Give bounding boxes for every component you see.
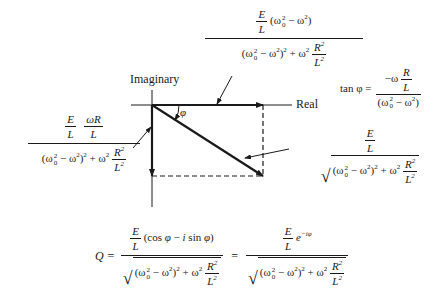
leader-magnitude-label	[245, 149, 289, 158]
tan-phi-equation: tan φ = −ω RL (ω20 − ω2)	[340, 66, 421, 110]
resultant-vector	[152, 105, 263, 176]
q-equation: Q = EL (cos φ − i sin φ) √(ω20 − ω2)2 + …	[95, 225, 348, 287]
equals-sign: =	[231, 249, 238, 264]
imaginary-axis-label: Imaginary	[130, 72, 179, 87]
q-term1: EL (cos φ − i sin φ) √(ω20 − ω2)2 + ω2 R…	[121, 225, 223, 287]
angle-arc	[175, 105, 179, 120]
real-axis-label: Real	[296, 97, 318, 112]
q-term2: EL e−iφ √(ω20 − ω2)2 + ω2 R2L2	[246, 225, 348, 287]
magnitude-label: EL √ (ω20 − ω2)2 + ω2 R2L2	[292, 127, 448, 185]
angle-phi-label: φ	[180, 106, 186, 118]
imaginary-component-label: EL ωRL (ω20 − ω2)2 + ω2 R2L2	[28, 113, 140, 173]
q-lhs: Q =	[95, 249, 115, 264]
leader-real-label	[217, 76, 232, 104]
real-component-label: EL (ω20 − ω2) (ω20 − ω2)2 + ω2 R2L2	[205, 8, 363, 68]
